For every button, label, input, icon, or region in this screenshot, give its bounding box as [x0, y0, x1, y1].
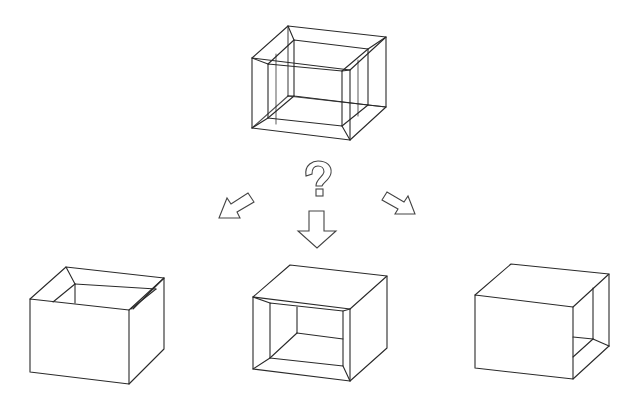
question-mark-icon: ?	[306, 161, 331, 196]
arrow-down-left-icon	[219, 193, 254, 218]
option-a-cube-open-top	[30, 267, 164, 384]
source-cube-frame	[252, 26, 386, 140]
arrow-down-icon	[298, 211, 336, 248]
puzzle-diagram: Which view of the cube frame?	[0, 0, 642, 402]
diagram-canvas: ?	[0, 0, 642, 402]
option-c-cube-open-right	[475, 264, 609, 379]
arrow-down-right-icon	[382, 192, 415, 214]
option-b-cube-open-front	[253, 265, 387, 381]
